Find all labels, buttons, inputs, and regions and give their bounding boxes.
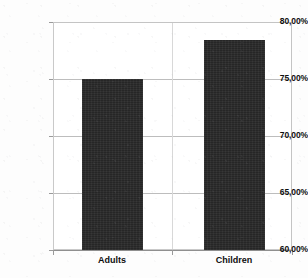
bar-children	[204, 40, 265, 250]
x-tick-left	[53, 250, 54, 255]
y-axis-label-80: 80,00%	[260, 17, 308, 26]
y-tick-80	[49, 22, 53, 23]
bar-chart: 80,00% 75,00% 70,00% 65,00% 60,00% Adult…	[0, 0, 308, 278]
y-axis-label-75: 75,00%	[260, 74, 308, 83]
y-tick-65	[49, 193, 53, 194]
x-axis-line	[53, 250, 293, 251]
x-axis-label-children: Children	[203, 255, 265, 266]
y-tick-75	[49, 79, 53, 80]
x-axis-label-adults: Adults	[82, 255, 142, 266]
y-axis-label-65: 65,00%	[260, 188, 308, 197]
y-axis-label-70: 70,00%	[260, 131, 308, 140]
y-tick-70	[49, 136, 53, 137]
bar-adults	[82, 79, 143, 250]
x-tick-middle	[172, 250, 173, 255]
y-axis-label-60: 60,00%	[260, 245, 308, 254]
category-separator	[172, 23, 173, 249]
plot-area	[53, 22, 292, 250]
